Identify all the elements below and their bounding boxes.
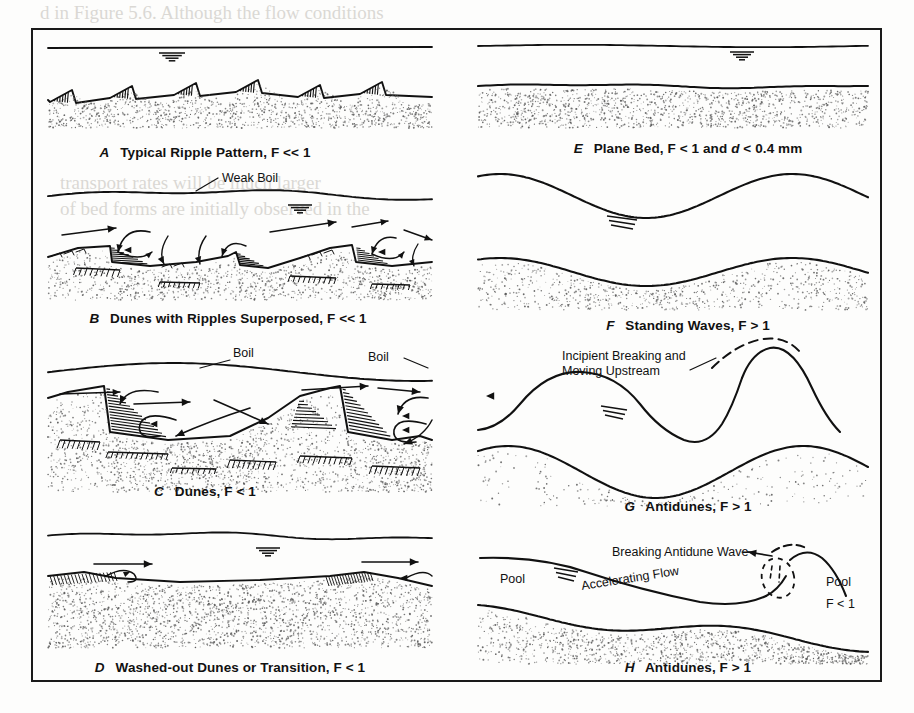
caption-F: F Standing Waves, F > 1 [606, 318, 770, 333]
caption-text-E-pre: Plane Bed, F < 1 and [594, 141, 732, 156]
annotation-accelerating-flow: Accelerating Flow [580, 564, 681, 593]
caption-C: C Dunes, F < 1 [154, 484, 256, 499]
panel-label-H: H [625, 660, 635, 675]
caption-D: D Washed-out Dunes or Transition, F < 1 [95, 660, 366, 675]
caption-H: H Antidunes, F > 1 [625, 660, 752, 675]
figure-labels: A Typical Ripple Pattern, F << 1 Weak Bo… [0, 0, 914, 713]
caption-text-C: Dunes, F < 1 [175, 484, 256, 499]
caption-B: B Dunes with Ripples Superposed, F << 1 [89, 311, 367, 326]
panel-label-B: B [89, 311, 99, 326]
annotation-pool-right: Pool [826, 575, 851, 589]
caption-text-B: Dunes with Ripples Superposed, F << 1 [110, 311, 367, 326]
caption-A: A Typical Ripple Pattern, F << 1 [98, 145, 310, 160]
caption-text-G: Antidunes, F > 1 [645, 499, 752, 514]
annotation-breaking-antidune-wave: Breaking Antidune Wave [612, 545, 748, 559]
panel-label-F: F [606, 318, 615, 333]
panel-label-D: D [95, 660, 105, 675]
panel-label-A: A [98, 145, 109, 160]
caption-text-H: Antidunes, F > 1 [645, 660, 752, 675]
caption-G: G Antidunes, F > 1 [624, 499, 752, 514]
annotation-froude-right: F < 1 [826, 597, 855, 611]
caption-text-A: Typical Ripple Pattern, F << 1 [120, 145, 311, 160]
annotation-incipient-breaking-1: Incipient Breaking and [562, 349, 686, 363]
caption-text-F: Standing Waves, F > 1 [625, 318, 770, 333]
panel-label-E: E [574, 141, 584, 156]
caption-text-E-italic: d [731, 141, 740, 156]
annotation-boil-right: Boil [368, 350, 389, 364]
caption-text-E-post: < 0.4 mm [743, 141, 802, 156]
caption-E: E Plane Bed, F < 1 and d < 0.4 mm [574, 141, 803, 156]
annotation-pool-left: Pool [500, 572, 525, 586]
bedform-figure: d in Figure 5.6. Although the flow condi… [0, 0, 914, 713]
caption-text-D: Washed-out Dunes or Transition, F < 1 [116, 660, 366, 675]
panel-label-C: C [154, 484, 164, 499]
annotation-incipient-breaking-2: Moving Upstream [562, 364, 660, 378]
panel-label-G: G [624, 499, 635, 514]
annotation-weak-boil: Weak Boil [222, 171, 278, 185]
annotation-boil-left: Boil [233, 346, 254, 360]
